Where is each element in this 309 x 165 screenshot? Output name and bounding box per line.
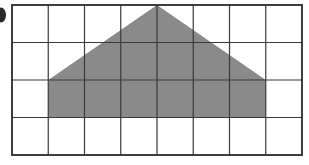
figure-root — [0, 0, 309, 165]
grid-figure-canvas — [0, 0, 309, 165]
